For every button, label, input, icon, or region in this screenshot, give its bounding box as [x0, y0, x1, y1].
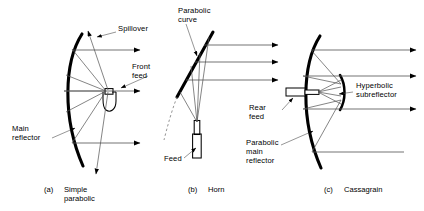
- panel-a-drawing: [52, 31, 148, 174]
- label-spillover: Spillover: [118, 24, 148, 33]
- label-rear-feed: Rear feed: [249, 103, 266, 121]
- label-front-feed: Front feed: [132, 62, 150, 80]
- caption-index-c: (c): [324, 185, 333, 194]
- figure-drawing: [0, 0, 424, 211]
- parabolic-curve-leader: [186, 24, 197, 56]
- label-parabolic-main-reflector: Parabolic main reflector: [246, 138, 279, 166]
- parabolic-main-reflector-arc: [306, 36, 321, 168]
- caption-text-b: Horn: [208, 185, 224, 194]
- caption-index-b: (b): [188, 185, 197, 194]
- parabolic-curve-dashed-extension: [164, 97, 177, 140]
- label-parabolic-curve: Parabolic curve: [178, 6, 211, 24]
- parabolic-curve-arc: [177, 32, 213, 97]
- rear-feed-waveguide: [286, 88, 319, 96]
- rear-feed-leader: [282, 98, 293, 110]
- hyperbolic-subreflector-leader: [339, 92, 353, 94]
- label-main-reflector: Main reflector: [12, 124, 40, 142]
- label-hyperbolic-subreflector: Hyperbolic subreflector: [356, 81, 397, 99]
- caption-text-a: Simple parabolic: [64, 185, 95, 204]
- panel-c-drawing: [281, 36, 416, 168]
- panel-c-output-beams: [303, 50, 416, 152]
- caption-text-c: Cassagrain: [344, 185, 382, 194]
- parabolic-main-reflector-leader: [281, 131, 313, 145]
- spillover-ray-bottom: [96, 92, 108, 174]
- antenna-reflector-figure: Spillover Front feed Main reflector Para…: [0, 0, 424, 211]
- caption-index-a: (a): [44, 185, 53, 194]
- feed-leader: [184, 148, 196, 158]
- label-feed: Feed: [164, 154, 182, 163]
- spillover-leader: [97, 32, 116, 37]
- horn-feed: [193, 121, 202, 159]
